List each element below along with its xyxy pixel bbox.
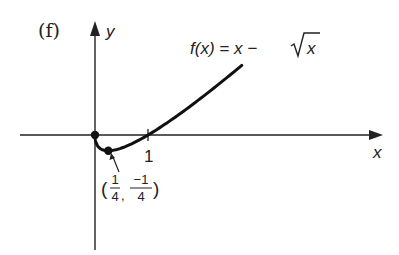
sqrt-icon bbox=[291, 33, 320, 56]
panel-label: (f) bbox=[38, 19, 60, 41]
label-x-numerator: 1 bbox=[111, 172, 118, 187]
annotation-leader-line bbox=[113, 157, 119, 172]
function-label: f(x) = x − x bbox=[190, 33, 320, 58]
label-separator: , bbox=[121, 188, 125, 203]
label-y-denominator: 4 bbox=[137, 189, 144, 204]
label-open-paren: ( bbox=[101, 178, 108, 199]
function-graph: (f) y x 1 f(x) = x − x ( 1 4 , −1 4 ) bbox=[0, 0, 399, 255]
function-label-lhs: f(x) = x − bbox=[190, 39, 257, 58]
function-curve bbox=[95, 65, 242, 150]
x-tick-label: 1 bbox=[144, 147, 153, 166]
function-label-radicand: x bbox=[306, 39, 316, 58]
x-axis-arrow-icon bbox=[369, 130, 383, 140]
origin-point bbox=[91, 131, 99, 139]
minimum-point-label: ( 1 4 , −1 4 ) bbox=[101, 172, 159, 204]
label-x-denominator: 4 bbox=[111, 189, 118, 204]
label-close-paren: ) bbox=[153, 178, 159, 199]
x-axis-label: x bbox=[372, 143, 382, 162]
y-axis-arrow-icon bbox=[90, 21, 100, 36]
y-axis-label: y bbox=[105, 22, 116, 41]
label-y-numerator: −1 bbox=[134, 172, 149, 187]
